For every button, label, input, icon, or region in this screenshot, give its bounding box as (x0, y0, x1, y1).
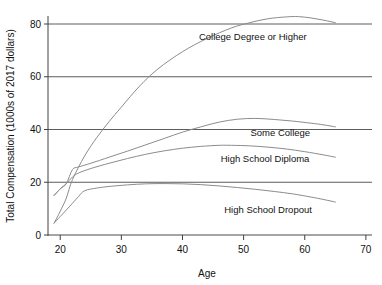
x-tick-label: 50 (238, 244, 250, 255)
y-tick-labels: 020406080 (30, 19, 42, 241)
x-axis-title: Age (198, 268, 216, 279)
y-axis-title: Total Compensation (1000s of 2017 dollar… (5, 29, 16, 222)
series-label-0: College Degree or Higher (199, 31, 307, 42)
x-axis-ticks (60, 235, 366, 240)
chart-axes (44, 16, 366, 240)
y-tick-label: 60 (30, 71, 42, 82)
series-line-0 (54, 17, 335, 224)
chart-page: 020406080 203040506070 College Degree or… (0, 0, 382, 285)
y-tick-label: 80 (30, 19, 42, 30)
x-tick-label: 70 (360, 244, 372, 255)
y-tick-label: 0 (35, 230, 41, 241)
x-tick-label: 30 (116, 244, 128, 255)
x-tick-label: 40 (177, 244, 189, 255)
x-tick-label: 20 (55, 244, 67, 255)
x-tick-labels: 203040506070 (55, 244, 372, 255)
chart-gridlines (48, 24, 372, 235)
y-tick-label: 40 (30, 124, 42, 135)
series-label-2: High School Diploma (221, 153, 310, 164)
y-tick-label: 20 (30, 177, 42, 188)
series-label-1: Some College (250, 127, 310, 138)
y-axis-ticks (44, 24, 48, 235)
line-chart: 020406080 203040506070 College Degree or… (0, 0, 382, 285)
chart-series-lines (54, 17, 335, 224)
series-label-3: High School Dropout (224, 204, 312, 215)
x-tick-label: 60 (299, 244, 311, 255)
